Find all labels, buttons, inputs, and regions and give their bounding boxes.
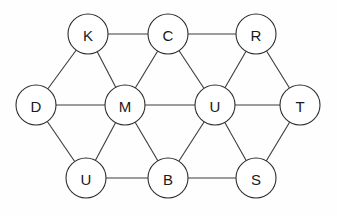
node-u: U <box>66 158 106 198</box>
node-t: T <box>280 85 320 125</box>
edges-layer <box>36 34 300 178</box>
nodes-layer: KCRDMUTUBS <box>16 14 320 198</box>
node-m: M <box>105 85 145 125</box>
node-label: S <box>251 171 261 188</box>
node-label: M <box>119 98 132 115</box>
node-s: S <box>236 158 276 198</box>
node-r: R <box>236 14 276 54</box>
node-label: R <box>251 27 262 44</box>
node-label: C <box>163 27 174 44</box>
node-label: U <box>81 171 92 188</box>
node-label: B <box>163 171 173 188</box>
graph-svg: KCRDMUTUBS <box>0 0 337 216</box>
node-label: K <box>83 27 93 44</box>
node-u: U <box>195 85 235 125</box>
node-k: K <box>68 14 108 54</box>
node-d: D <box>16 85 56 125</box>
graph-diagram: KCRDMUTUBS <box>0 0 337 216</box>
node-label: D <box>31 98 42 115</box>
node-label: T <box>295 98 304 115</box>
node-b: B <box>148 158 188 198</box>
node-label: U <box>210 98 221 115</box>
node-c: C <box>148 14 188 54</box>
